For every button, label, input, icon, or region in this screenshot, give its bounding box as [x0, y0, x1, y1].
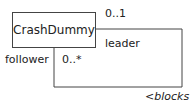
class-box-crashdummy[interactable]: CrashDummy — [12, 12, 96, 48]
association-name: <blocks — [145, 91, 189, 102]
leader-role-label: leader — [105, 38, 140, 49]
follower-role-label: follower — [5, 54, 49, 65]
follower-multiplicity: 0..* — [62, 54, 82, 65]
leader-multiplicity: 0..1 — [105, 8, 126, 19]
class-name: CrashDummy — [13, 23, 95, 37]
